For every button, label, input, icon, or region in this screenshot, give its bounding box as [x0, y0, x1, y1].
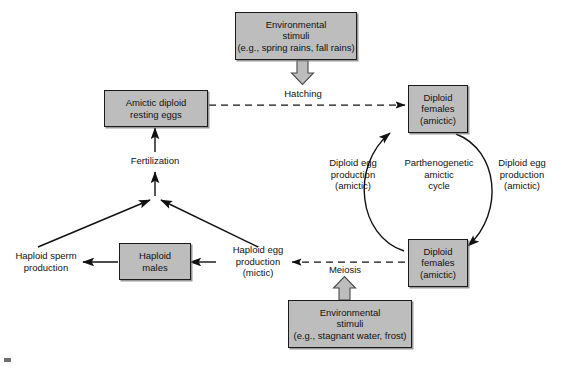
haploid-egg-line2: production: [220, 256, 296, 268]
meiosis-block-arrow: [334, 277, 356, 301]
resting-eggs-line2: resting eggs: [130, 109, 182, 121]
hatching-label: Hatching: [248, 88, 358, 100]
haploid-egg-line1: Haploid egg: [220, 244, 296, 256]
cycle-center-line3: cycle: [382, 180, 496, 192]
diploid-females-top-line1: Diploid: [423, 92, 452, 104]
diploid-females-top-line3: (amictic): [420, 115, 456, 127]
env-top-line1: Environmental: [266, 19, 327, 31]
environmental-stimuli-top-box: Environmental stimuli (e.g., spring rain…: [235, 12, 357, 60]
haploid-males-box: Haploid males: [119, 243, 191, 280]
diploid-females-bottom-line2: females: [421, 257, 454, 269]
haploid-sperm-line1: Haploid sperm: [6, 250, 86, 262]
egg-to-fertilization-arrow: [161, 200, 258, 247]
diploid-females-bottom-line1: Diploid: [423, 246, 452, 258]
parthenogenetic-amictic-cycle-label: Parthenogenetic amictic cycle: [382, 157, 496, 192]
diploid-females-amictic-bottom-box: Diploid females (amictic): [408, 239, 468, 287]
diploid-egg-production-left-label: Diploid egg production (amictic): [315, 157, 391, 192]
fertilization-label: Fertilization: [100, 155, 210, 167]
resting-eggs-line1: Amictic diploid: [126, 97, 187, 109]
env-bottom-line3: (e.g., stagnant water, frost): [294, 330, 407, 342]
haploid-egg-production-label: Haploid egg production (mictic): [220, 244, 296, 279]
environmental-stimuli-bottom-box: Environmental stimuli (e.g., stagnant wa…: [288, 300, 412, 348]
env-top-line3: (e.g., spring rains, fall rains): [237, 42, 354, 54]
diploid-egg-left-line2: production: [315, 169, 391, 181]
diploid-females-top-line2: females: [421, 103, 454, 115]
diploid-egg-left-line1: Diploid egg: [315, 157, 391, 169]
diploid-females-bottom-line3: (amictic): [420, 269, 456, 281]
rotifer-life-cycle-diagram: Environmental stimuli (e.g., spring rain…: [0, 0, 568, 369]
sperm-to-fertilization-arrow: [38, 200, 150, 247]
env-bottom-line1: Environmental: [320, 307, 381, 319]
haploid-males-line1: Haploid: [139, 250, 171, 262]
diploid-egg-right-line3: (amictic): [483, 180, 561, 192]
env-top-line2: stimuli: [283, 30, 310, 42]
cycle-center-line2: amictic: [382, 169, 496, 181]
haploid-sperm-production-label: Haploid sperm production: [6, 250, 86, 273]
meiosis-label: Meiosis: [294, 264, 396, 276]
diploid-egg-left-line3: (amictic): [315, 180, 391, 192]
haploid-males-line2: males: [142, 262, 167, 274]
diploid-egg-right-line1: Diploid egg: [483, 157, 561, 169]
diploid-females-amictic-top-box: Diploid females (amictic): [408, 85, 468, 133]
haploid-sperm-line2: production: [6, 262, 86, 274]
haploid-egg-line3: (mictic): [220, 267, 296, 279]
amictic-cycle-left-arc: [364, 133, 404, 251]
diploid-egg-production-right-label: Diploid egg production (amictic): [483, 157, 561, 192]
amictic-diploid-resting-eggs-box: Amictic diploid resting eggs: [104, 90, 208, 127]
cycle-center-line1: Parthenogenetic: [382, 157, 496, 169]
diploid-egg-right-line2: production: [483, 169, 561, 181]
hatching-block-arrow: [292, 60, 314, 85]
env-bottom-line2: stimuli: [337, 318, 364, 330]
page-corner-mark: [4, 358, 11, 362]
